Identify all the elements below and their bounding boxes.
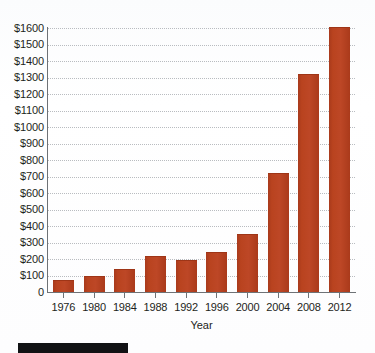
bar-slot [263, 28, 294, 292]
y-axis-tick-label: $200 [0, 254, 44, 265]
tick-slot [79, 292, 110, 298]
bar-slot [171, 28, 202, 292]
bar-slot [232, 28, 263, 292]
x-axis-tick-label: 2012 [324, 301, 355, 313]
bar-slot [48, 28, 79, 292]
bar-slot [201, 28, 232, 292]
x-axis-tick-label: 1996 [201, 301, 232, 313]
x-axis-tick [216, 292, 217, 298]
tick-slot [201, 292, 232, 298]
bar[interactable] [176, 260, 197, 292]
y-axis-tick-label: $800 [0, 155, 44, 166]
bar-slot [140, 28, 171, 292]
x-axis-tick [155, 292, 156, 298]
y-axis-tick-label: $1000 [0, 122, 44, 133]
x-axis-tick [339, 292, 340, 298]
x-axis-tick [308, 292, 309, 298]
x-axis-tick-label: 2000 [232, 301, 263, 313]
y-axis-tick-label: $400 [0, 221, 44, 232]
tick-slot [294, 292, 325, 298]
y-axis-tick-label: $600 [0, 188, 44, 199]
x-axis-tick-label: 2008 [294, 301, 325, 313]
x-axis-tick [63, 292, 64, 298]
bar[interactable] [329, 27, 350, 292]
x-axis-tick-label: 1980 [79, 301, 110, 313]
y-axis-tick-label: $300 [0, 237, 44, 248]
x-axis-tick [247, 292, 248, 298]
bar-chart-figure: $1600$1500$1400$1300$1200$1100$1000$900$… [0, 0, 375, 353]
x-axis-tick [124, 292, 125, 298]
bar-series [48, 28, 355, 292]
x-axis-tick [94, 292, 95, 298]
bar[interactable] [114, 269, 135, 292]
y-axis-tick-label: $700 [0, 171, 44, 182]
x-axis-tick-label: 2004 [263, 301, 294, 313]
x-axis-tick-label: 1984 [109, 301, 140, 313]
bar[interactable] [84, 276, 105, 292]
tick-slot [48, 292, 79, 298]
bar[interactable] [237, 234, 258, 292]
bar-slot [109, 28, 140, 292]
y-axis-tick-label: $100 [0, 270, 44, 281]
x-axis-tick [186, 292, 187, 298]
x-axis-tick-labels: 1976198019841988199219962000200420082012 [48, 301, 355, 313]
y-axis-tick-label: $1300 [0, 72, 44, 83]
x-axis-tick-label: 1988 [140, 301, 171, 313]
y-axis-tick-label: $1600 [0, 23, 44, 34]
bar-slot [294, 28, 325, 292]
x-axis-title: Year [48, 319, 355, 331]
tick-slot [140, 292, 171, 298]
y-axis-tick-label: $1500 [0, 39, 44, 50]
y-axis-tick-label: 0 [0, 287, 44, 298]
tick-slot [171, 292, 202, 298]
bar[interactable] [298, 74, 319, 292]
x-axis-tick [278, 292, 279, 298]
x-axis-tick-label: 1992 [171, 301, 202, 313]
tick-slot [324, 292, 355, 298]
tick-slot [263, 292, 294, 298]
x-axis-tick-label: 1976 [48, 301, 79, 313]
y-axis-tick-label: $1100 [0, 105, 44, 116]
bar[interactable] [268, 173, 289, 292]
y-axis-tick-label: $500 [0, 204, 44, 215]
bar-slot [79, 28, 110, 292]
x-axis-ticks [48, 292, 355, 298]
tick-slot [232, 292, 263, 298]
y-axis-tick-label: $900 [0, 138, 44, 149]
y-axis-tick-label: $1200 [0, 89, 44, 100]
bar[interactable] [53, 280, 74, 292]
y-axis-tick-label: $1400 [0, 56, 44, 67]
bar-slot [324, 28, 355, 292]
tick-slot [109, 292, 140, 298]
caption-bar [18, 343, 128, 353]
bar[interactable] [206, 252, 227, 292]
bar[interactable] [145, 256, 166, 292]
